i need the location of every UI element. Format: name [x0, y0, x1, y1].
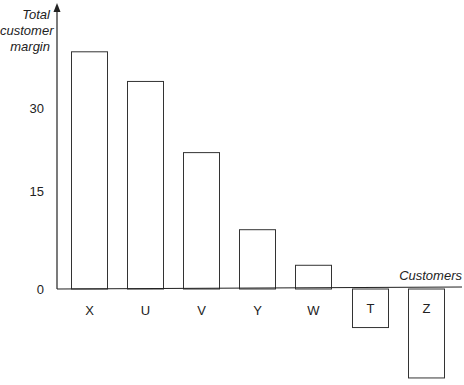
- category-label-u: U: [128, 303, 164, 318]
- x-axis-title: Customers: [392, 268, 462, 284]
- bar-v: [184, 153, 220, 289]
- bar-y: [240, 230, 276, 289]
- y-axis-title: Total customer margin: [0, 7, 50, 55]
- chart-canvas: [0, 0, 464, 385]
- bar-w: [296, 265, 332, 289]
- y-tick-30: 30: [14, 101, 44, 116]
- y-axis-title-line: Total: [0, 7, 50, 23]
- bar-x: [72, 52, 108, 289]
- y-tick-0: 0: [14, 282, 44, 297]
- category-label-y: Y: [240, 303, 276, 318]
- category-label-t: T: [353, 301, 389, 316]
- y-axis-title-line: margin: [0, 39, 50, 55]
- bars-group: [72, 52, 445, 378]
- category-label-z: Z: [409, 301, 445, 316]
- category-label-v: V: [184, 303, 220, 318]
- y-tick-15: 15: [14, 184, 44, 199]
- category-label-w: W: [296, 303, 332, 318]
- y-axis-arrow-icon: [54, 3, 61, 12]
- bar-u: [128, 81, 164, 289]
- category-label-x: X: [72, 303, 108, 318]
- y-axis-title-line: customer: [0, 23, 50, 39]
